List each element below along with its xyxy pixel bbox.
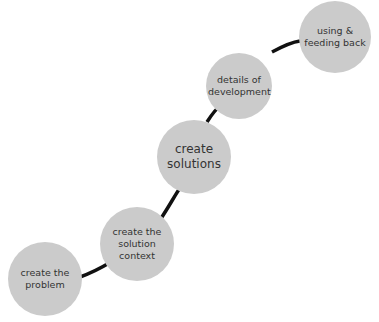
node-label: create the problem: [17, 267, 73, 291]
node-create-the-problem: create the problem: [8, 242, 82, 316]
node-create-solutions: create solutions: [157, 120, 231, 194]
node-using-feeding-back: using & feeding back: [299, 1, 371, 73]
node-create-the-solution-context: create the solution context: [100, 207, 174, 281]
node-label: details of development: [208, 74, 270, 98]
node-details-of-development: details of development: [206, 53, 272, 119]
node-label: create solutions: [161, 142, 227, 172]
node-label: using & feeding back: [304, 25, 366, 49]
node-label: create the solution context: [111, 226, 163, 262]
